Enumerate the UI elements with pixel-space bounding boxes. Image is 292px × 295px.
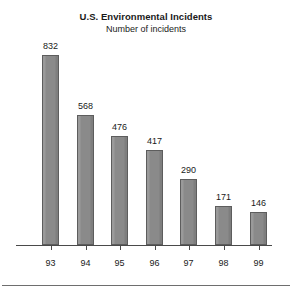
x-axis-label-98: 98 [204,258,244,268]
x-axis-label-95: 95 [100,258,140,268]
bar-94 [77,115,94,245]
bar-value-label-94: 568 [66,101,106,111]
x-axis-tick-93 [51,246,52,250]
plot-area: 83293568944769541796290971719814699 [0,0,292,295]
x-axis-tick-96 [155,246,156,250]
x-axis-label-97: 97 [169,258,209,268]
bar-value-label-98: 171 [204,192,244,202]
bar-96 [146,150,163,245]
bar-value-label-96: 417 [135,136,175,146]
x-axis-tick-97 [189,246,190,250]
bar-value-label-93: 832 [31,41,71,51]
bar-97 [180,179,197,245]
bar-value-label-97: 290 [169,165,209,175]
bar-93 [42,55,59,245]
x-axis-tick-99 [259,246,260,250]
bar-chart-figure: U.S. Environmental Incidents Number of i… [0,0,292,295]
x-axis-line [16,245,272,246]
x-axis-tick-94 [86,246,87,250]
x-axis-tick-95 [120,246,121,250]
bar-value-label-95: 476 [100,122,140,132]
bar-99 [250,212,267,245]
bar-95 [111,136,128,245]
bar-value-label-99: 146 [239,198,279,208]
bar-98 [215,206,232,245]
x-axis-label-99: 99 [239,258,279,268]
x-axis-tick-98 [224,246,225,250]
x-axis-label-93: 93 [31,258,71,268]
bottom-horizontal-rule [2,285,290,286]
